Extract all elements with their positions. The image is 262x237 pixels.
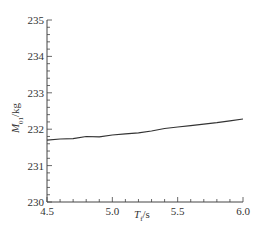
x-tick-label: 5.5 — [171, 205, 185, 217]
x-tick-label: 5.0 — [105, 205, 119, 217]
y-tick-label: 234 — [28, 50, 45, 62]
y-label-subscript: 01 — [17, 117, 25, 124]
y-axis-label: M01/kg — [10, 88, 24, 148]
x-tick-label: 6.0 — [236, 205, 250, 217]
data-series-line — [47, 119, 243, 140]
x-tick-label: 4.5 — [40, 205, 54, 217]
y-label-symbol: M — [9, 124, 21, 133]
line-chart: 2302312322332342354.55.05.56.0 — [0, 0, 262, 237]
y-tick-label: 235 — [28, 14, 45, 26]
x-axis-label: Tf/s — [134, 208, 150, 223]
y-label-unit: /kg — [9, 103, 21, 117]
y-tick-label: 233 — [28, 87, 45, 99]
y-tick-label: 231 — [28, 160, 45, 172]
plot-area: 2302312322332342354.55.05.56.0 — [0, 0, 262, 237]
x-label-unit: /s — [142, 208, 149, 220]
y-tick-label: 232 — [28, 123, 45, 135]
